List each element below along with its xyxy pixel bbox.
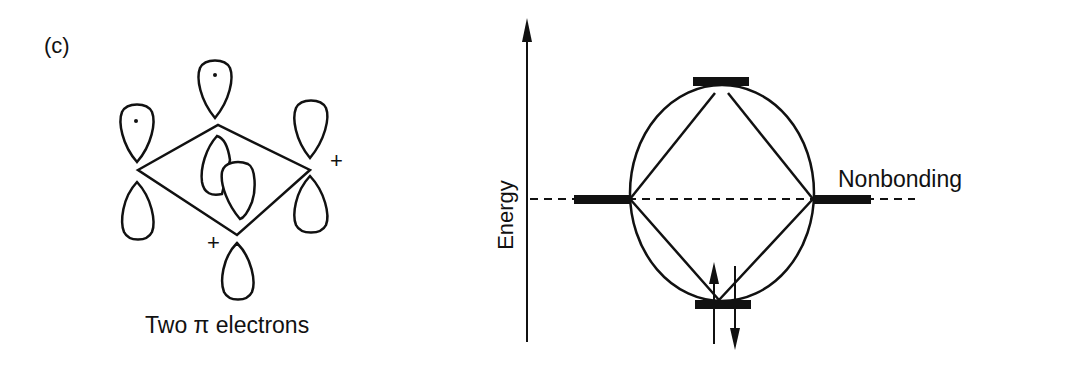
dot-top [213, 73, 217, 77]
energy-axis-label: Energy [493, 175, 519, 255]
energy-axis-arrowhead-icon [522, 18, 532, 42]
left-figure [121, 61, 328, 300]
panel-label: (c) [44, 33, 70, 59]
level-top [693, 77, 749, 86]
orbital-right-lower [294, 176, 327, 233]
energy-levels [574, 77, 871, 309]
level-bottom [695, 300, 751, 309]
level-nonbonding-left [574, 195, 631, 204]
plus-sign-bottom: + [207, 230, 220, 256]
square-edge [630, 199, 813, 300]
arrow-up-icon [709, 262, 719, 284]
arrow-down-icon [730, 328, 740, 350]
orbital-bottom-lower [222, 243, 253, 300]
frost-circle [630, 85, 814, 301]
orbital-center-front [222, 162, 255, 219]
plus-sign-right: + [330, 148, 343, 174]
orbital-left-upper [121, 105, 154, 163]
square-edge [728, 93, 813, 199]
orbital-dots [134, 73, 217, 123]
left-caption: Two π electrons [145, 312, 309, 339]
orbital-top-upper [199, 61, 232, 119]
level-nonbonding-right [814, 195, 871, 204]
square-edge [630, 93, 715, 199]
dot-left [134, 119, 138, 123]
orbital-right-upper [294, 101, 327, 159]
orbital-left-lower [122, 182, 153, 240]
nonbonding-label: Nonbonding [838, 166, 962, 193]
